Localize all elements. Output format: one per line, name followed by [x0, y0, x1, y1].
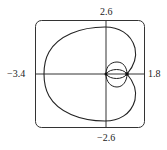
x-min-label: −3.4 — [7, 69, 25, 79]
origin-point — [105, 73, 108, 76]
inner-upper-loop — [106, 62, 127, 74]
cusp-point — [125, 72, 129, 76]
x-max-label: 1.8 — [148, 69, 161, 79]
inner-lower-loop — [106, 74, 127, 87]
y-min-label: −2.6 — [97, 133, 115, 143]
y-max-label: 2.6 — [100, 7, 113, 17]
